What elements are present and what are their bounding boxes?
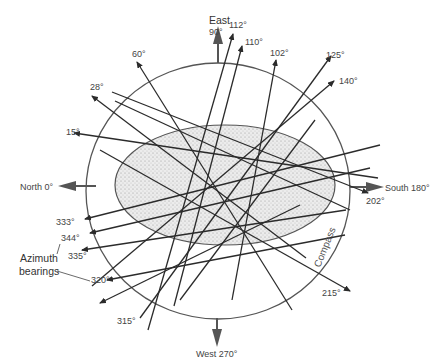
bearing-label-15: 15°: [66, 127, 80, 137]
north-arrow-head: [58, 181, 76, 191]
south-label: South 180°: [385, 183, 430, 193]
legend-leader-320: [57, 271, 90, 281]
bearing-label-125: 125°: [326, 50, 345, 60]
bearing-label-140: 140°: [339, 76, 358, 86]
legend-label-line2: bearings: [19, 265, 59, 277]
bearing-label-110: 110°: [245, 37, 263, 47]
bearing-label-60: 60°: [132, 49, 146, 59]
azimuth-diagram: East 90° South 180° West 270° North 0° 1…: [0, 0, 441, 360]
bearing-label-320: 320°: [91, 275, 110, 285]
bearing-label-335: 335°: [68, 251, 87, 261]
bearing-label-202: 202°: [366, 196, 385, 206]
bearing-label-315: 315°: [117, 316, 136, 326]
west-arrow-head: [212, 329, 222, 347]
bearing-label-333: 333°: [56, 217, 75, 227]
legend-leader-344: [57, 244, 60, 254]
legend-label-line1: Azimuth: [20, 252, 58, 264]
north-label: North 0°: [20, 182, 54, 192]
compass-label: Compass: [312, 225, 338, 268]
bearing-label-28: 28°: [90, 82, 104, 92]
south-arrow-head: [366, 182, 384, 192]
west-label: West 270°: [196, 349, 238, 359]
bearing-label-215: 215°: [322, 288, 341, 298]
error-ellipse: [115, 125, 335, 245]
bearing-label-112: 112°: [229, 20, 247, 30]
bearing-label-102: 102°: [270, 48, 289, 58]
east-label: East: [209, 14, 230, 26]
bearing-label-344: 344°: [61, 233, 80, 243]
east-degrees-label: 90°: [209, 27, 223, 37]
